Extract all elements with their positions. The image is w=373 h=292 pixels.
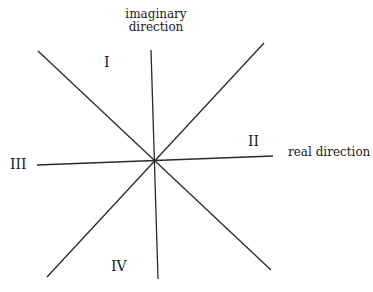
real-direction-label: real direction <box>288 146 370 159</box>
direction-diagram: imaginary direction real direction I II … <box>0 0 373 292</box>
quadrant-label-iv: IV <box>111 258 127 274</box>
imaginary-direction-label: imaginary direction <box>118 8 194 34</box>
quadrant-label-ii: II <box>248 133 259 149</box>
quadrant-label-iii: III <box>10 156 27 172</box>
quadrant-label-i: I <box>104 54 110 70</box>
diagonal-line-up-right <box>47 43 264 277</box>
imaginary-label-line2: direction <box>118 21 194 34</box>
